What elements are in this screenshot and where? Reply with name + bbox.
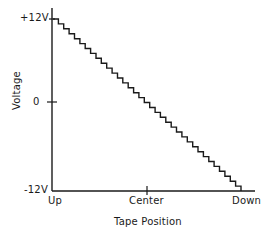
x-tick-label-down: Down bbox=[232, 195, 261, 206]
y-tick-label-bottom: -12V bbox=[24, 184, 48, 195]
x-tick-label-center: Center bbox=[129, 195, 164, 206]
y-tick-label-top: +12V bbox=[20, 12, 49, 23]
x-axis-title: Tape Position bbox=[114, 216, 182, 227]
staircase-series bbox=[53, 19, 241, 191]
y-axis-title: Voltage bbox=[11, 71, 22, 111]
x-tick-label-up: Up bbox=[48, 195, 62, 206]
y-tick-label-zero: 0 bbox=[33, 96, 40, 107]
